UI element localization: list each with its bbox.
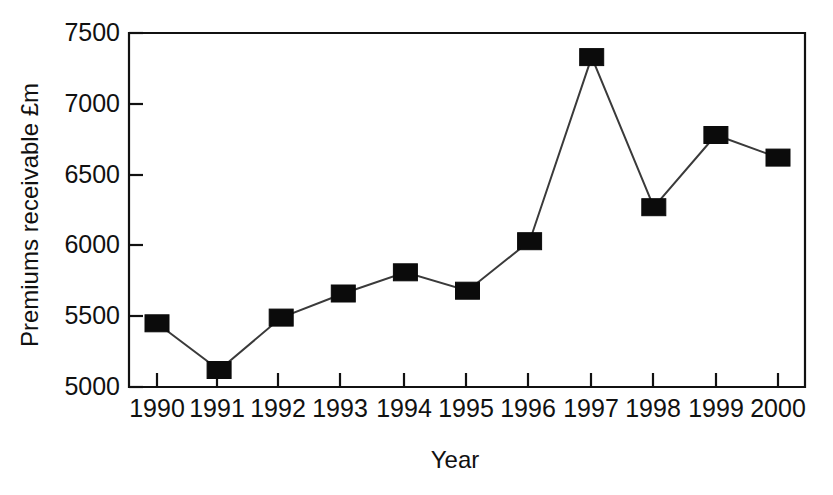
x-tick-label-1992: 1992: [250, 394, 306, 422]
y-tick-label-5000: 5000: [64, 372, 120, 400]
data-point-1991: [207, 362, 231, 379]
x-tick-label-1990: 1990: [129, 394, 185, 422]
x-tick-label-1996: 1996: [500, 394, 556, 422]
y-axis-title: Premiums receivable £m: [16, 83, 43, 347]
plot-frame: [129, 33, 805, 387]
x-axis-ticks: [157, 373, 778, 387]
y-tick-label-6000: 6000: [64, 230, 120, 258]
data-point-1994: [393, 264, 417, 281]
data-point-1992: [269, 309, 293, 326]
x-tick-label-1997: 1997: [563, 394, 619, 422]
y-tick-label-6500: 6500: [64, 160, 120, 188]
x-tick-label-1994: 1994: [376, 394, 432, 422]
y-tick-label-7000: 7000: [64, 89, 120, 117]
chart-figure: 7500 7000 6500 6000 5500 5000 1990 1991 …: [0, 0, 833, 495]
x-tick-label-1993: 1993: [312, 394, 368, 422]
data-point-1990: [145, 315, 169, 332]
y-axis-ticks: [129, 33, 143, 387]
data-point-1995: [456, 282, 480, 299]
data-point-1997: [580, 49, 604, 66]
x-tick-label-1995: 1995: [438, 394, 494, 422]
data-point-1996: [518, 233, 542, 250]
y-axis-tick-labels: 7500 7000 6500 6000 5500 5000: [64, 18, 120, 400]
x-tick-label-1999: 1999: [688, 394, 744, 422]
x-axis-title: Year: [431, 446, 480, 473]
y-tick-label-5500: 5500: [64, 301, 120, 329]
series-line-premiums: [157, 57, 778, 370]
data-point-1993: [331, 285, 355, 302]
data-point-1998: [642, 199, 666, 216]
x-tick-label-2000: 2000: [750, 394, 806, 422]
x-axis-tick-labels: 1990 1991 1992 1993 1994 1995 1996 1997 …: [129, 394, 806, 422]
x-tick-label-1991: 1991: [189, 394, 245, 422]
line-chart: 7500 7000 6500 6000 5500 5000 1990 1991 …: [0, 0, 833, 495]
x-tick-label-1998: 1998: [625, 394, 681, 422]
series-markers: [145, 49, 790, 379]
data-point-1999: [704, 127, 728, 144]
y-tick-label-7500: 7500: [64, 18, 120, 46]
data-point-2000: [766, 149, 790, 166]
